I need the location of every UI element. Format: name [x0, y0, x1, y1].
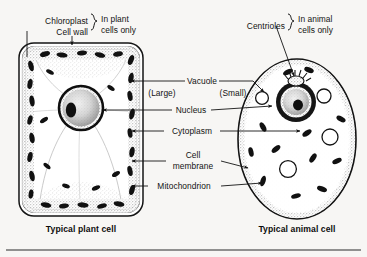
brace-animal: [288, 14, 294, 30]
note-animal-only-line2: cells only: [298, 25, 333, 35]
label-chloroplast: Chloroplast: [45, 16, 88, 26]
label-vacuole-large: (Large): [148, 88, 175, 98]
label-mitochondrion: Mitochondrion: [157, 181, 210, 191]
note-animal-only-line1: In animal: [298, 14, 332, 24]
figure-canvas: Chloroplast Cell wall In plant cells onl…: [0, 0, 367, 257]
plant-nucleus: [59, 86, 103, 130]
caption-plant-cell: Typical plant cell: [46, 224, 116, 234]
label-centrioles: Centrioles: [247, 21, 285, 31]
label-cell-membrane-line2: membrane: [173, 161, 213, 171]
caption-animal-cell: Typical animal cell: [258, 224, 335, 234]
label-cell-wall: Cell wall: [56, 27, 88, 37]
label-vacuole-small: (Small): [220, 88, 247, 98]
animal-nucleus: [276, 82, 316, 122]
plant-cell-drawing: [19, 43, 143, 216]
note-plant-only-line2: cells only: [101, 25, 136, 35]
label-cytoplasm: Cytoplasm: [172, 126, 212, 136]
brace-plant: [91, 14, 97, 30]
note-plant-only-line1: In plant: [101, 14, 129, 24]
label-vacuole: Vacuole: [187, 76, 217, 86]
animal-cell-drawing: [238, 59, 356, 219]
label-cell-membrane-line1: Cell: [186, 150, 201, 160]
label-nucleus: Nucleus: [176, 105, 207, 115]
